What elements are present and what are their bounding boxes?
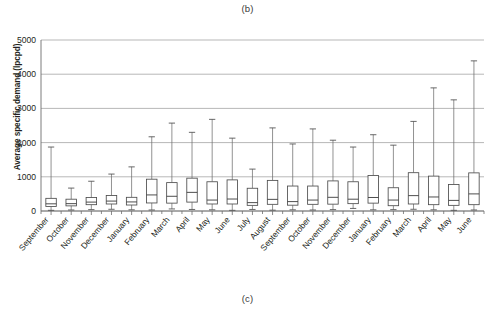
box-iqr [328,181,338,204]
y-tick-label: 1000 [17,172,36,182]
x-tick-label: July [235,214,253,232]
plot-area: 010002000300040005000SeptemberOctoberNov… [0,22,495,290]
box-iqr [147,179,157,203]
x-tick-label: June [212,215,232,236]
box-plot-item [449,100,459,210]
box-plot-item [348,147,358,208]
box-iqr [348,182,358,204]
box-iqr [86,197,96,204]
box-plot-item [428,88,438,210]
box-plot-item [86,181,96,209]
box-plot-item [469,61,479,210]
figure-caption-top: (b) [0,3,495,14]
box-iqr [449,184,459,205]
box-iqr [66,199,76,206]
box-plot-item [106,174,116,209]
box-plot-item [247,169,257,209]
x-tick-label: March [149,215,172,240]
box-iqr [408,173,418,204]
x-tick-label: March [390,215,413,240]
box-iqr [207,182,217,204]
box-iqr [167,183,177,204]
box-iqr [46,198,56,206]
box-plot-item [328,140,338,209]
box-plot-item [147,137,157,210]
box-plot-item [227,138,237,210]
box-plot-item [408,121,418,209]
box-iqr [126,197,136,205]
box-plot-item [167,123,177,209]
y-tick-label: 3000 [17,103,36,113]
x-tick-label: April [173,215,192,234]
boxplot-chart: Average specific demand (lpcpd) 01000200… [0,22,495,290]
x-tick-label: May [194,214,212,233]
box-plot-item [388,145,398,209]
box-iqr [187,178,197,202]
box-iqr [227,180,237,204]
box-iqr [368,175,378,203]
box-plot-item [66,188,76,210]
box-plot-item [187,132,197,209]
y-tick-label: 0 [31,206,36,216]
box-plot-item [207,119,217,209]
box-iqr [308,186,318,204]
figure-caption-bottom: (c) [0,293,495,304]
box-plot-item [368,135,378,210]
x-tick-label: September [17,215,51,253]
x-tick-label: April [415,215,434,234]
box-iqr [388,188,398,206]
box-plot-item [126,167,136,210]
box-iqr [267,180,277,204]
box-iqr [287,186,297,205]
box-plot-item [267,128,277,210]
x-tick-label: June [454,215,474,236]
box-iqr [428,176,438,205]
y-tick-label: 5000 [17,35,36,45]
x-tick-label: May [435,214,453,233]
y-tick-label: 4000 [17,69,36,79]
box-plot-item [308,129,318,210]
box-iqr [106,195,116,204]
box-iqr [469,173,479,205]
box-plot-item [46,147,56,210]
y-tick-label: 2000 [17,138,36,148]
